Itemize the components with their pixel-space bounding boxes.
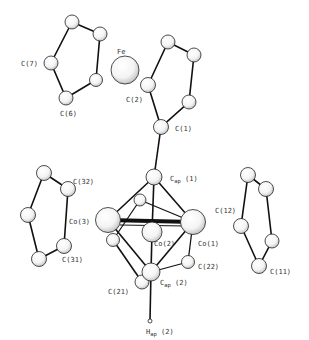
label-c32: C(32) xyxy=(73,178,94,186)
atom-hap2 xyxy=(148,319,152,323)
atom-co1 xyxy=(181,210,206,235)
atom-c-inner xyxy=(134,194,146,206)
atom-c-left xyxy=(107,234,120,247)
atoms xyxy=(21,15,280,323)
atom-c xyxy=(241,168,256,183)
label-cap2: Cap (2) xyxy=(160,279,188,289)
label-c21: C(21) xyxy=(108,288,129,296)
atom-c31 xyxy=(57,239,72,254)
atom-c11 xyxy=(252,259,267,274)
label-c31: C(31) xyxy=(62,256,83,264)
atom-c xyxy=(21,208,36,223)
label-c6: C(6) xyxy=(60,110,77,118)
label-c2: C(2) xyxy=(126,96,143,104)
atom-c xyxy=(182,95,196,109)
atom-c xyxy=(93,27,107,41)
atom-c xyxy=(37,166,52,181)
label-c11: C(11) xyxy=(270,268,291,276)
atom-fe xyxy=(111,56,139,84)
label-hap2: Hap (2) xyxy=(146,328,174,338)
label-c12: C(12) xyxy=(215,207,236,215)
atom-co3 xyxy=(96,208,121,233)
atom-c xyxy=(187,48,201,62)
atom-cap2 xyxy=(142,263,160,281)
atom-c6 xyxy=(59,91,73,105)
atom-c xyxy=(259,182,274,197)
atom-c7 xyxy=(44,56,58,70)
atom-c xyxy=(161,35,175,49)
label-c7: C(7) xyxy=(21,60,38,68)
label-co2: Co(2) xyxy=(154,240,175,248)
molecule-diagram: Fe C(7) C(6) C(2) C(1) Cap (1) C(32) Co(… xyxy=(0,0,309,340)
atom-c xyxy=(265,234,279,248)
atom-cap1 xyxy=(146,169,162,185)
label-c1: C(1) xyxy=(175,125,192,133)
atom-c2 xyxy=(141,78,156,93)
atom-c xyxy=(90,74,103,87)
label-co3: Co(3) xyxy=(69,218,90,226)
atom-c1 xyxy=(154,120,169,135)
atom-c12 xyxy=(234,219,249,234)
label-c22: C(22) xyxy=(198,263,219,271)
atom-c22 xyxy=(182,256,195,269)
atom-c xyxy=(65,15,79,29)
label-fe: Fe xyxy=(117,48,125,56)
label-cap1: Cap (1) xyxy=(170,175,198,185)
label-co1: Co(1) xyxy=(198,240,219,248)
atom-c xyxy=(32,252,47,267)
atom-co2 xyxy=(142,222,162,242)
